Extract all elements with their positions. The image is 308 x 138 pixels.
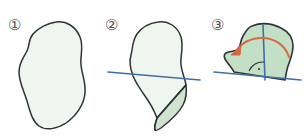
panel-3-graphic — [205, 0, 308, 138]
panel-2-graphic — [100, 0, 208, 138]
diagram-panel-3: ③ — [205, 0, 308, 138]
rotation-center-dot — [258, 68, 260, 70]
diagram-panel-2: ② — [100, 0, 208, 138]
three-step-fold-diagram: ① ② ③ — [0, 0, 308, 138]
blob-outline-1 — [19, 22, 85, 129]
diagram-panel-1: ① — [0, 0, 104, 138]
panel-1-graphic — [0, 0, 104, 138]
